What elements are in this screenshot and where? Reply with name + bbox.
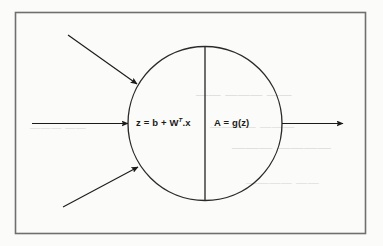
activation-function-label: A = g(z) bbox=[214, 117, 249, 128]
input-arrow-top bbox=[68, 35, 137, 84]
neuron-diagram bbox=[0, 0, 383, 246]
input-arrow-bottom bbox=[63, 167, 138, 207]
figure-canvas: —— ——— —— ———— ——— ——— ———— ———— —— ——— … bbox=[0, 0, 383, 246]
linear-combination-label: z = b + WT.x bbox=[136, 117, 191, 128]
linear-eq-prefix: z = b + W bbox=[136, 117, 179, 128]
linear-eq-suffix: .x bbox=[182, 117, 190, 128]
